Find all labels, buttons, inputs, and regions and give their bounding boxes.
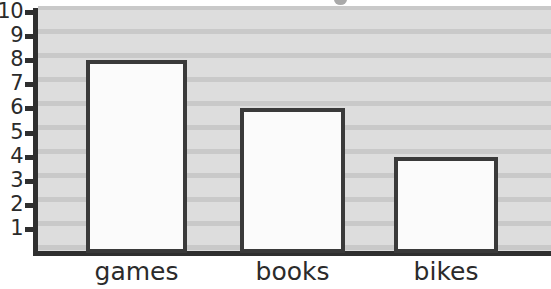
y-tick-label: 7 [0, 73, 23, 94]
y-tick-mark [25, 179, 38, 184]
y-tick-label: 5 [0, 122, 23, 143]
bar-bikes [394, 157, 498, 253]
y-tick-label: 1 [0, 218, 23, 239]
y-tick-mark [25, 131, 38, 136]
y-tick-mark [25, 82, 38, 87]
y-tick-label: 6 [0, 97, 23, 118]
y-tick-mark [25, 10, 38, 15]
bar-games [86, 60, 187, 253]
y-tick-label: 4 [0, 146, 23, 167]
y-tick-label: 8 [0, 49, 23, 70]
y-tick-mark [25, 58, 38, 63]
bar-books [240, 108, 345, 253]
y-tick-label: 9 [0, 25, 23, 46]
bar-chart: 10987654321 gamesbooksbikes [0, 0, 551, 289]
category-label-books: books [210, 258, 375, 286]
y-tick-label: 2 [0, 194, 23, 215]
category-label-games: games [56, 258, 217, 286]
y-tick-mark [25, 106, 38, 111]
y-tick-mark [25, 155, 38, 160]
y-tick-label: 10 [0, 1, 23, 22]
category-label-bikes: bikes [364, 258, 528, 286]
y-tick-mark [25, 203, 38, 208]
y-tick-label: 3 [0, 170, 23, 191]
cropped-title-remnant [334, 0, 347, 5]
y-tick-mark [25, 227, 38, 232]
y-tick-mark [25, 34, 38, 39]
